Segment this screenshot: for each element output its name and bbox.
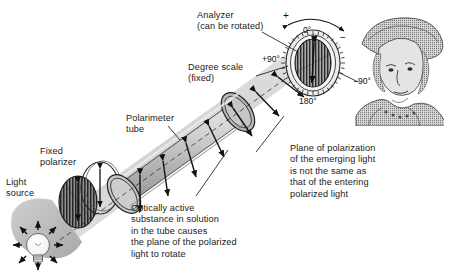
observer-portrait-icon bbox=[352, 4, 446, 128]
analyzer-label: Analyzer (can be rotated) bbox=[197, 10, 263, 33]
degree-scale-label: Degree scale (fixed) bbox=[188, 62, 243, 85]
rotation-arc-arrow bbox=[288, 19, 344, 31]
scale-minus-ninety-label: −90° bbox=[353, 76, 371, 86]
scale-one-eighty-label: 180° bbox=[299, 96, 317, 106]
scale-zero-label: 0° bbox=[303, 25, 311, 35]
plane-of-polarization-caption: Plane of polarization of the emerging li… bbox=[290, 143, 375, 200]
scale-plus-ninety-label: +90° bbox=[262, 54, 280, 64]
rotation-plus-sign: + bbox=[283, 10, 289, 21]
polarimeter-tube-label: Polarimeter tube bbox=[126, 113, 174, 136]
rotation-minus-sign: − bbox=[340, 32, 346, 43]
polarimeter-figure: Analyzer (can be rotated) Degree scale (… bbox=[0, 0, 450, 273]
light-source-label: Light source bbox=[6, 177, 34, 200]
fixed-polarizer-label: Fixed polarizer bbox=[40, 146, 76, 169]
optically-active-caption: Optically active substance in solution i… bbox=[131, 203, 237, 260]
